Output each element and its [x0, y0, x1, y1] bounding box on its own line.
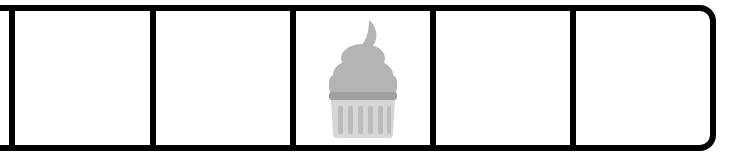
- inventory-slot-1[interactable]: [15, 11, 149, 145]
- inventory-slot-4[interactable]: [436, 11, 570, 145]
- inventory-slot-3[interactable]: [296, 11, 430, 145]
- inventory-slot-2[interactable]: [156, 11, 290, 145]
- inventory-slot-5[interactable]: [576, 11, 710, 145]
- cupcake-icon: [325, 16, 401, 140]
